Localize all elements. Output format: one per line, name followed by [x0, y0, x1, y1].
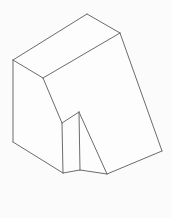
drawing-canvas — [0, 0, 171, 218]
faces-group — [13, 14, 162, 174]
isometric-block-svg — [0, 0, 171, 218]
